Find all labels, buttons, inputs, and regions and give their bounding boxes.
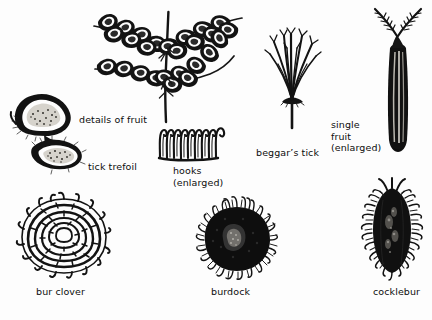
cocklebur-figure bbox=[355, 178, 429, 282]
label-bur-clover: bur clover bbox=[36, 286, 85, 298]
hooks-detail-figure bbox=[156, 122, 230, 162]
burdock-figure bbox=[185, 195, 289, 281]
label-details-of-fruit: details of fruit bbox=[79, 114, 147, 126]
label-single-fruit-enlarged: single fruit (enlarged) bbox=[331, 119, 381, 154]
label-burdock: burdock bbox=[211, 286, 250, 298]
seed-pod-branch-figure bbox=[76, 4, 261, 124]
illustration-plate: details of fruit tick trefoil hooks (enl… bbox=[0, 0, 432, 320]
beggars-tick-figure bbox=[258, 22, 326, 130]
label-hooks-enlarged: hooks (enlarged) bbox=[173, 165, 223, 188]
label-cocklebur: cocklebur bbox=[373, 286, 420, 298]
bur-clover-figure bbox=[12, 193, 116, 279]
label-beggars-tick: beggar’s tick bbox=[256, 147, 319, 159]
label-tick-trefoil: tick trefoil bbox=[88, 161, 137, 173]
tick-trefoil-detail-figure bbox=[4, 88, 102, 172]
